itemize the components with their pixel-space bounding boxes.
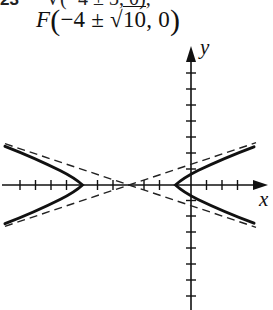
y-axis-arrow-icon <box>186 46 196 62</box>
y-axis-label: y <box>198 35 210 59</box>
x-axis-label: x <box>258 187 269 211</box>
hyperbola-graph: y x <box>0 0 273 310</box>
